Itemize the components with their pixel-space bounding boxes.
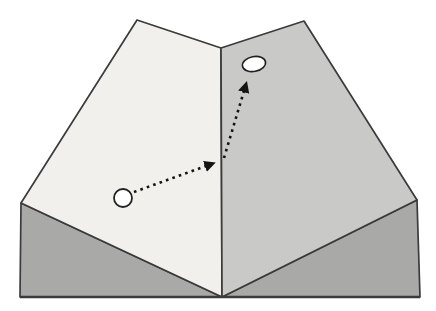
diagram-canvas [0,0,436,311]
ball-circle [114,189,132,207]
incline-figure-svg [0,0,436,311]
